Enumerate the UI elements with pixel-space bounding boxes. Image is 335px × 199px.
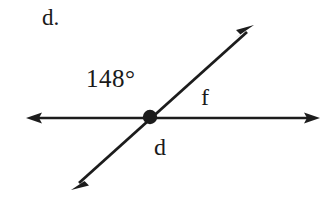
angle-label-d: d (154, 135, 166, 159)
diagonal-line-shaft (79, 32, 247, 183)
diagonal-lower-left-arrowhead (71, 177, 91, 190)
angle-diagram-figure: d. 148° f d (0, 0, 335, 199)
diagonal-line (71, 25, 254, 190)
angle-measure-label: 148° (86, 66, 136, 91)
horizontal-line (26, 113, 320, 124)
vertex-point (143, 110, 157, 124)
angle-label-f: f (201, 85, 209, 109)
problem-number-label: d. (42, 6, 59, 29)
diagonal-upper-right-arrowhead (235, 25, 255, 39)
